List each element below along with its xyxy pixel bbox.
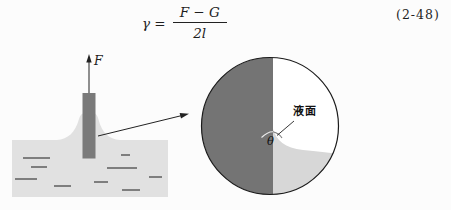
equation-lhs: γ = (142, 15, 166, 31)
liquid-surface-label: 液面 (293, 106, 317, 117)
equation-numerator: F − G (173, 4, 227, 23)
plate (83, 93, 96, 159)
equation-number: (2-48) (396, 9, 440, 22)
pointer-arrowhead (180, 113, 189, 119)
magnified-plate-region (200, 56, 273, 197)
contact-angle-label: θ (267, 136, 274, 148)
force-arrow (86, 54, 91, 93)
equation-denominator: 2l (193, 23, 206, 41)
surface-tension-equation: γ = F − G 2l (142, 4, 227, 41)
equation-fraction: F − G 2l (173, 4, 227, 41)
pointer-arrow (98, 113, 189, 136)
force-label: F (94, 55, 103, 68)
force-arrowhead (86, 54, 91, 63)
figure-surface-tension-plate-method: γ = F − G 2l (2-48) F θ 液面 (0, 0, 451, 210)
